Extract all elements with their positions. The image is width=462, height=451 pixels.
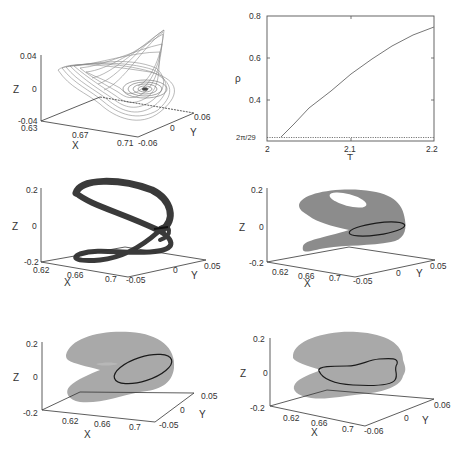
y-axis-label: Y bbox=[190, 127, 197, 138]
panel-e-3d-plot: 0.2 0 -0.2 Z 0.62 0.66 0.7 X -0.05 0 0.0… bbox=[0, 300, 231, 451]
z-tick: 0.2 bbox=[26, 339, 38, 349]
x-tick: 0.7 bbox=[329, 273, 341, 283]
x-tick: 0.62 bbox=[62, 416, 79, 426]
z-tick: 0.2 bbox=[26, 185, 38, 195]
y-tick: 0 bbox=[404, 413, 409, 423]
z-tick: 0 bbox=[263, 368, 268, 378]
y-tick: 0.4 bbox=[249, 95, 261, 105]
y-axis-label: Y bbox=[199, 409, 206, 420]
trajectory-spiral-center bbox=[123, 80, 167, 98]
x-axis-label: X bbox=[84, 429, 91, 440]
x-tick: 0.67 bbox=[72, 130, 89, 140]
z-tick: -0.2 bbox=[250, 403, 265, 413]
z-axis-label: Z bbox=[12, 221, 18, 232]
y-tick: -0.05 bbox=[159, 420, 179, 430]
z-tick: 0 bbox=[32, 84, 37, 94]
x-axis-label: X bbox=[311, 427, 318, 438]
y-tick: 0.8 bbox=[249, 11, 261, 21]
y-tick: -0.05 bbox=[353, 276, 373, 286]
y-axis-label: Y bbox=[422, 415, 429, 426]
y-tick: 2π/29 bbox=[236, 133, 256, 142]
z-axis-label: Z bbox=[13, 372, 19, 383]
z-tick: 0 bbox=[33, 372, 38, 382]
panel-b-line-chart: 0.8 0.6 0.4 2π/29 ρ 2 2.1 2.2 T bbox=[231, 0, 462, 160]
x-tick: 0.62 bbox=[283, 413, 300, 423]
y-tick: -0.06 bbox=[364, 426, 384, 436]
x-tick: 0.7 bbox=[129, 422, 141, 432]
y-tick: 0 bbox=[180, 405, 185, 415]
x-tick: 0.62 bbox=[33, 265, 50, 275]
x-axis-label: X bbox=[304, 278, 311, 289]
panel-a-3d-plot: 0.04 0 -0.04 Z 0.63 0.67 0.71 X -0.06 0 … bbox=[0, 0, 231, 150]
rho-curve bbox=[281, 27, 434, 137]
x-tick: 0.66 bbox=[94, 419, 111, 429]
panel-f-3d-plot: 0.2 0 -0.2 Z 0.62 0.66 0.7 X -0.06 0 0.0… bbox=[231, 300, 462, 451]
y-tick: 0 bbox=[396, 268, 401, 278]
trajectory-band bbox=[76, 181, 171, 260]
y-tick: -0.05 bbox=[126, 275, 146, 285]
y-tick: 0.05 bbox=[201, 391, 218, 401]
z-axis-label: Z bbox=[240, 368, 246, 379]
x-tick: 0.63 bbox=[21, 123, 38, 133]
x-tick: 0.7 bbox=[342, 424, 354, 434]
z-tick: 0 bbox=[32, 221, 37, 231]
z-tick: 0 bbox=[259, 222, 264, 232]
panel-d-3d-plot: 0.2 0 -0.2 Z 0.62 0.66 0.7 X -0.05 0 0.0… bbox=[231, 150, 462, 300]
y-tick: 0 bbox=[170, 123, 175, 133]
y-tick: 0 bbox=[173, 265, 178, 275]
panel-c-3d-plot: 0.2 0 -0.2 Z 0.62 0.66 0.7 X -0.05 0 0.0… bbox=[0, 150, 231, 300]
z-tick: 0.2 bbox=[251, 185, 263, 195]
y-tick: 0.05 bbox=[204, 261, 221, 271]
y-axis-label: Y bbox=[191, 270, 198, 281]
torus-surface bbox=[293, 332, 405, 399]
y-tick: 0.05 bbox=[430, 261, 447, 271]
x-axis-label: X bbox=[72, 140, 79, 150]
x-tick: 0.71 bbox=[117, 138, 134, 148]
z-tick: 0.04 bbox=[20, 51, 37, 61]
axes-box bbox=[41, 188, 206, 277]
y-axis-label: ρ bbox=[235, 73, 241, 84]
z-tick: -0.2 bbox=[23, 408, 38, 418]
plot-frame bbox=[267, 16, 434, 141]
y-tick: 0.6 bbox=[249, 53, 261, 63]
x-tick: 0.7 bbox=[105, 274, 117, 284]
z-tick: 0.2 bbox=[253, 334, 265, 344]
y-tick: -0.06 bbox=[138, 138, 158, 148]
z-tick: -0.2 bbox=[249, 258, 264, 268]
x-axis-label: X bbox=[64, 277, 71, 288]
z-axis-label: Z bbox=[13, 84, 19, 95]
y-tick: 0.06 bbox=[434, 400, 451, 410]
z-axis-label: Z bbox=[239, 222, 245, 233]
y-axis-label: Y bbox=[416, 268, 423, 279]
y-tick: 0.06 bbox=[194, 112, 211, 122]
x-tick: 0.62 bbox=[272, 267, 289, 277]
tick-marks bbox=[267, 16, 434, 141]
